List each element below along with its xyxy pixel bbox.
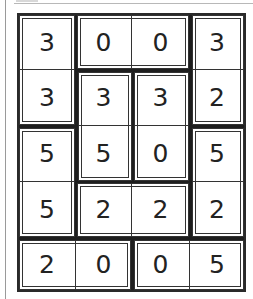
grid-cell[interactable]: 5: [19, 182, 76, 238]
cell-number: 0: [153, 28, 169, 57]
grid-cell[interactable]: 0: [132, 238, 190, 290]
cell-number: 2: [39, 250, 55, 279]
domino-puzzle-grid: 3 0 0 3 3 3 3 2 5 5 0 5 5 2 2 2 2 0 0 5: [17, 13, 246, 292]
grid-cell[interactable]: 2: [19, 238, 76, 290]
cell-number: 5: [209, 139, 225, 168]
grid-cell[interactable]: 5: [190, 238, 244, 290]
grid-cell[interactable]: 0: [132, 15, 190, 70]
grid-cell[interactable]: 5: [190, 126, 244, 182]
grid-cell[interactable]: 2: [132, 182, 190, 238]
cell-number: 5: [39, 195, 55, 224]
grid-cell[interactable]: 2: [76, 182, 132, 238]
page-header-mark: [16, 0, 38, 2]
grid-cell[interactable]: 3: [19, 15, 76, 70]
grid-cell[interactable]: 0: [76, 15, 132, 70]
cell-number: 0: [153, 250, 169, 279]
grid-cell[interactable]: 0: [76, 238, 132, 290]
grid-cell[interactable]: 3: [190, 15, 244, 70]
grid-cell[interactable]: 2: [190, 182, 244, 238]
grid-cell[interactable]: 3: [76, 70, 132, 126]
cell-number: 0: [96, 28, 112, 57]
page-edge-top: [14, 3, 253, 4]
cell-number: 5: [209, 250, 225, 279]
cell-number: 2: [209, 195, 225, 224]
cell-number: 0: [153, 139, 169, 168]
cell-number: 2: [96, 195, 112, 224]
cell-number: 3: [153, 83, 169, 112]
grid-cell[interactable]: 5: [76, 126, 132, 182]
cell-number: 3: [39, 83, 55, 112]
grid-cell[interactable]: 2: [190, 70, 244, 126]
cell-number: 5: [96, 139, 112, 168]
grid-cell[interactable]: 5: [19, 126, 76, 182]
page-edge-left: [5, 0, 6, 299]
cell-number: 3: [96, 83, 112, 112]
cell-number: 3: [39, 28, 55, 57]
grid-cell[interactable]: 3: [19, 70, 76, 126]
cell-number: 5: [39, 139, 55, 168]
cell-number: 2: [209, 83, 225, 112]
cell-number: 3: [209, 28, 225, 57]
cell-number: 0: [96, 250, 112, 279]
grid-cell[interactable]: 0: [132, 126, 190, 182]
grid-cell[interactable]: 3: [132, 70, 190, 126]
cell-number: 2: [153, 195, 169, 224]
